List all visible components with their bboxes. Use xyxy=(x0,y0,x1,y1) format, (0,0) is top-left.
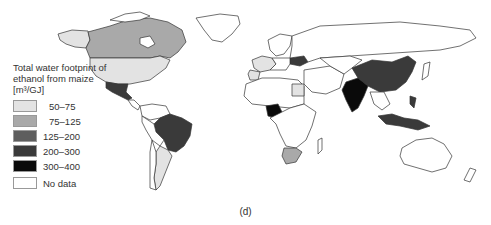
region-canada xyxy=(86,18,186,58)
legend-unit: [m³/GJ] xyxy=(13,84,133,95)
legend-label: 75–125 xyxy=(49,116,81,127)
region-new-zealand xyxy=(464,168,476,182)
legend-label: 125–200 xyxy=(43,131,80,142)
region-madagascar xyxy=(318,138,322,154)
region-india xyxy=(342,78,368,112)
region-iberia xyxy=(248,70,260,80)
legend-title-line2: ethanol from maize xyxy=(13,73,133,84)
legend-swatch xyxy=(13,145,37,157)
region-scandinavia xyxy=(268,34,292,56)
legend-item-125-200: 125–200 xyxy=(13,129,133,143)
legend-swatch xyxy=(13,177,37,189)
legend-item-50-75: 50–75 xyxy=(13,99,133,113)
region-philippines xyxy=(410,96,416,108)
legend-item-300-400: 300–400 xyxy=(13,159,133,173)
legend-item-no-data: No data xyxy=(13,176,133,190)
figure-caption: (d) xyxy=(0,206,491,217)
legend-swatch xyxy=(13,100,37,112)
legend-label: No data xyxy=(43,178,76,189)
legend-title-line1: Total water footprint of xyxy=(13,62,133,73)
legend-swatch xyxy=(13,115,37,127)
map-legend: Total water footprint of ethanol from ma… xyxy=(13,62,133,191)
region-greenland xyxy=(196,14,240,42)
region-chile xyxy=(150,140,156,190)
legend-title: Total water footprint of ethanol from ma… xyxy=(13,62,133,95)
region-alaska xyxy=(58,30,90,48)
region-south-africa xyxy=(282,148,302,164)
legend-swatch xyxy=(13,160,37,172)
legend-label: 50–75 xyxy=(49,101,75,112)
legend-item-200-300: 200–300 xyxy=(13,144,133,158)
legend-label: 300–400 xyxy=(43,161,80,172)
region-russia xyxy=(290,22,476,62)
legend-swatch xyxy=(13,130,37,142)
region-australia xyxy=(400,138,452,172)
region-egypt xyxy=(292,84,304,96)
region-indonesia xyxy=(378,114,430,130)
region-argentina xyxy=(154,146,172,190)
region-japan xyxy=(422,62,430,80)
region-southeast-asia xyxy=(370,92,390,110)
legend-item-75-125: 75–125 xyxy=(13,114,133,128)
legend-label: 200–300 xyxy=(43,146,80,157)
